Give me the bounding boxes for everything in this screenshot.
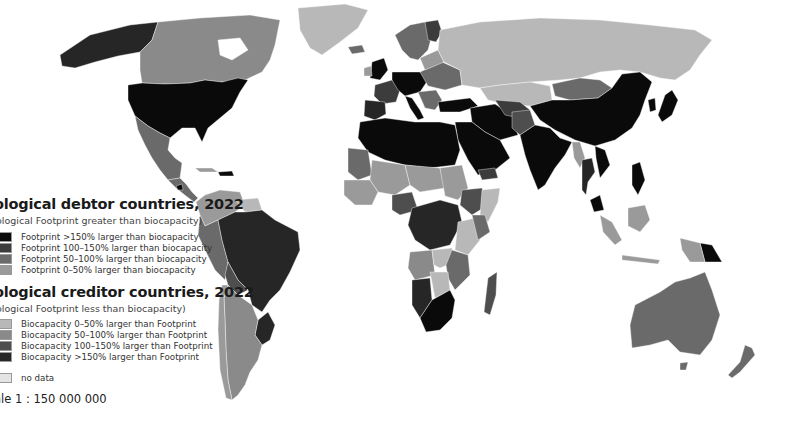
- region-korea: [648, 98, 656, 112]
- region-russia: [438, 18, 712, 88]
- region-canada: [140, 15, 280, 84]
- region-central-africa: [408, 200, 462, 250]
- region-iberia: [364, 100, 386, 120]
- region-new-guinea-west: [680, 238, 705, 262]
- region-japan: [658, 90, 678, 122]
- region-haiti-dr: [218, 171, 234, 176]
- region-philippines: [632, 162, 645, 195]
- region-balkans: [418, 90, 442, 110]
- region-madagascar: [484, 272, 497, 315]
- region-yemen: [478, 168, 498, 180]
- region-mauritania-mali: [348, 148, 372, 180]
- region-cuba: [195, 168, 218, 172]
- region-ireland: [364, 66, 372, 76]
- region-iceland: [348, 45, 365, 54]
- region-thailand: [582, 158, 595, 195]
- region-java: [622, 255, 660, 264]
- region-tasmania: [680, 362, 688, 370]
- region-new-zealand: [728, 345, 755, 378]
- region-vietnam: [595, 146, 610, 178]
- region-guyana: [235, 198, 262, 212]
- region-borneo: [628, 205, 650, 232]
- region-malaysia: [590, 195, 604, 212]
- region-niger-chad: [405, 165, 445, 192]
- region-australia: [630, 272, 720, 355]
- world-map: [0, 0, 795, 430]
- region-uk: [370, 58, 388, 80]
- region-zimbabwe-moz: [446, 250, 470, 290]
- region-sumatra: [600, 215, 622, 245]
